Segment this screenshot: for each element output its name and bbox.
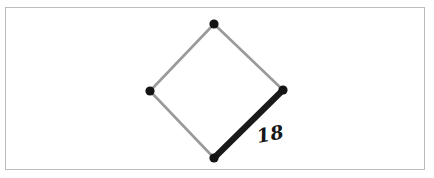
vertex-dot-top <box>209 19 218 28</box>
edge-top-right <box>214 24 283 90</box>
edge-top-left <box>150 24 214 91</box>
figure-root: 18 <box>0 0 434 178</box>
side-length-label: 18 <box>255 121 286 147</box>
rhombus-diagram: 18 <box>0 0 434 178</box>
vertex-dot-bottom <box>209 153 218 162</box>
vertex-dot-left <box>145 86 154 95</box>
edge-bottom-left <box>150 91 214 158</box>
vertex-dot-right <box>278 85 287 94</box>
